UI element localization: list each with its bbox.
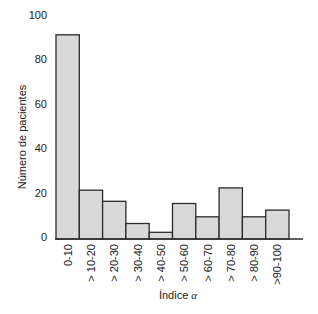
histogram-chart: 020406080100 0-10> 10-20> 20-30> 30-40> … [0, 0, 318, 314]
y-axis-title: Número de pacientes [16, 84, 28, 189]
x-tick-label: > 10-20 [85, 244, 97, 282]
bar-40-50 [149, 232, 172, 239]
bar-0-10 [56, 35, 79, 239]
bar-90-100 [266, 210, 289, 239]
bar-50-60 [173, 204, 196, 240]
bars [56, 35, 289, 239]
y-axis-tick-labels: 020406080100 [29, 9, 47, 243]
x-tick-label: 0-10 [62, 244, 74, 266]
y-tick-label: 0 [41, 231, 47, 243]
x-tick-label: > 80-90 [248, 244, 260, 282]
x-tick-label: > 30-40 [132, 244, 144, 282]
y-tick-label: 80 [35, 53, 47, 65]
x-tick-label: > 20-30 [108, 244, 120, 282]
bar-10-20 [79, 190, 102, 239]
bar-30-40 [126, 224, 149, 240]
x-tick-label: > 70-80 [225, 244, 237, 282]
x-tick-label: >90-100 [271, 244, 283, 285]
bar-20-30 [103, 201, 126, 239]
y-tick-label: 60 [35, 98, 47, 110]
y-tick-label: 40 [35, 142, 47, 154]
x-axis-tick-labels: 0-10> 10-20> 20-30> 30-40> 40-50> 50-60>… [62, 244, 284, 285]
y-tick-label: 20 [35, 187, 47, 199]
x-tick-label: > 60-70 [202, 244, 214, 282]
x-tick-label: > 50-60 [178, 244, 190, 282]
bar-60-70 [196, 217, 219, 239]
x-tick-label: > 40-50 [155, 244, 167, 282]
bar-70-80 [219, 188, 242, 239]
y-tick-label: 100 [29, 9, 47, 21]
x-axis-title: Índice α [159, 289, 197, 301]
bar-80-90 [242, 217, 265, 239]
